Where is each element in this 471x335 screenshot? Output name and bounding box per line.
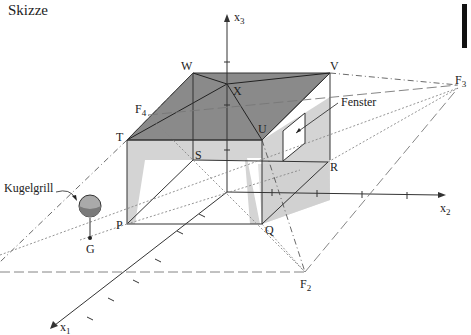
x1-axis-label: x1 [60, 320, 71, 335]
point-U: U [258, 122, 267, 136]
point-P: P [116, 218, 123, 232]
point-S: S [195, 148, 202, 162]
point-G: G [86, 242, 95, 256]
point-F3: F3 [455, 73, 467, 89]
point-Q: Q [265, 223, 274, 237]
point-W: W [181, 59, 193, 73]
point-T: T [116, 130, 124, 144]
fenster-label: Fenster [341, 95, 376, 109]
point-V: V [330, 59, 339, 73]
grill [56, 191, 101, 240]
point-R: R [330, 160, 338, 174]
kugelgrill-label: Kugelgrill [4, 181, 54, 195]
x3-axis-label: x3 [234, 10, 245, 26]
house-diagram: x3 x2 x1 W V X U T S R P Q G F4 F3 F2 Fe… [0, 0, 471, 335]
point-F4: F4 [135, 102, 147, 118]
point-X: X [233, 84, 242, 98]
labels: x3 x2 x1 W V X U T S R P Q G F4 F3 F2 Fe… [4, 10, 467, 335]
point-F2: F2 [300, 277, 311, 293]
x2-axis-label: x2 [440, 201, 451, 217]
